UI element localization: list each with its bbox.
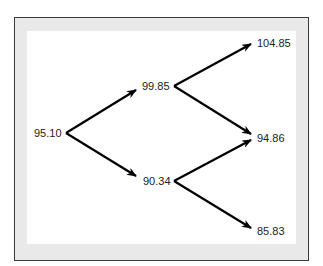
arrow-root-to-down [66, 133, 136, 176]
arrow-down-to-dd [174, 181, 251, 228]
node-up-up: 104.85 [257, 37, 291, 49]
arrow-up-to-uu [174, 44, 251, 86]
node-root: 95.10 [34, 127, 62, 139]
arrow-up-to-ud [174, 86, 251, 134]
node-down: 90.34 [143, 175, 171, 187]
node-down-down: 85.83 [257, 225, 285, 237]
node-up-down: 94.86 [257, 132, 285, 144]
node-up: 99.85 [142, 80, 170, 92]
arrow-root-to-up [66, 90, 136, 133]
arrow-down-to-ud [174, 140, 251, 181]
